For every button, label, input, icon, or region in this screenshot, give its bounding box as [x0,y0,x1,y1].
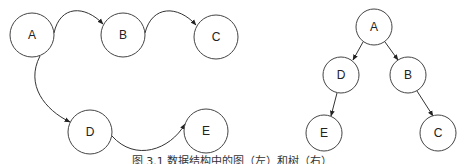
tree-node-d: D [323,57,359,93]
graph-node-d: D [68,110,112,154]
tree-edge-d-e [331,93,337,116]
svg-text:C: C [434,126,443,140]
svg-text:E: E [202,124,210,138]
edge-a-d [35,56,70,122]
svg-text:C: C [212,30,221,44]
tree-node-b: B [390,57,426,93]
edge-b-c [145,11,196,33]
tree-edge-b-c [417,91,433,116]
svg-text:D: D [337,68,346,82]
figure-caption: 图 3.1 数据结构中的图（左）和树（右） [0,155,464,164]
svg-text:E: E [320,126,328,140]
graph-node-a: A [10,13,54,57]
svg-text:B: B [404,68,412,82]
graph-node-b: B [101,13,145,57]
tree-node-a: A [356,9,392,45]
svg-text:D: D [86,125,95,139]
svg-text:B: B [119,28,127,42]
edge-a-b [54,11,103,33]
svg-text:A: A [28,28,36,42]
diagram-canvas: A B C D E A D [0,0,464,164]
graph-node-c: C [194,15,238,59]
tree-right: A D B E C [306,9,456,151]
edge-d-e [112,124,185,151]
tree-node-c: C [420,115,456,151]
tree-edge-a-b [385,42,398,60]
svg-text:A: A [370,20,378,34]
tree-node-e: E [306,115,342,151]
graph-left: A B C D E [10,11,238,154]
graph-node-e: E [184,109,228,153]
tree-edge-a-d [353,42,363,60]
